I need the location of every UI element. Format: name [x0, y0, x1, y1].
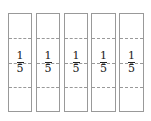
fraction-label: 15	[92, 50, 115, 75]
fraction-bar: 15	[119, 13, 144, 112]
numerator: 1	[73, 49, 80, 62]
divider	[120, 87, 143, 88]
numerator: 1	[100, 49, 107, 62]
divider	[37, 87, 59, 88]
divider	[92, 87, 115, 88]
denominator: 5	[128, 62, 135, 75]
denominator: 5	[100, 62, 107, 75]
fraction-label: 15	[120, 50, 143, 75]
fraction-label: 15	[37, 50, 59, 75]
denominator: 5	[73, 62, 80, 75]
divider	[65, 38, 87, 39]
denominator: 5	[17, 62, 24, 75]
numerator: 1	[45, 49, 52, 62]
fraction-label: 15	[9, 50, 31, 75]
numerator: 1	[17, 49, 24, 62]
fraction-bar: 15	[36, 13, 60, 112]
fraction-label: 15	[65, 50, 87, 75]
denominator: 5	[45, 62, 52, 75]
fraction-bar: 15	[91, 13, 116, 112]
divider	[92, 38, 115, 39]
divider	[9, 38, 31, 39]
divider	[9, 87, 31, 88]
divider	[120, 38, 143, 39]
numerator: 1	[128, 49, 135, 62]
divider	[65, 87, 87, 88]
fraction-bar: 15	[8, 13, 32, 112]
divider	[37, 38, 59, 39]
fraction-bar: 15	[64, 13, 88, 112]
